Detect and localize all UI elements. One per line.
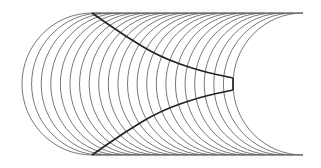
arc-family (22, 13, 303, 155)
curve-family-diagram (0, 0, 321, 168)
arc-curve (22, 13, 92, 155)
boundary-curves (92, 13, 233, 155)
